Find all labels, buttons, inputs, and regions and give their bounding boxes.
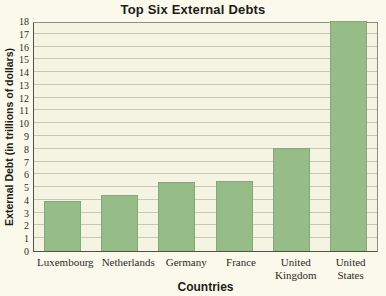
x-category-label-united-states: United States: [323, 256, 378, 282]
y-tick-label-14: 14: [19, 68, 29, 78]
bar-netherlands: [101, 195, 138, 251]
x-category-label-united-kingdom: United Kingdom: [268, 256, 323, 282]
y-tick-label-7: 7: [24, 158, 29, 168]
x-axis-category-labels: LuxembourgNetherlandsGermanyFranceUnited…: [33, 256, 378, 282]
y-tick-label-2: 2: [24, 221, 29, 231]
y-tick-label-10: 10: [19, 119, 29, 129]
y-tick-label-16: 16: [19, 43, 29, 53]
y-tick-label-1: 1: [24, 234, 29, 244]
bar-luxembourg: [44, 201, 81, 251]
bar-slot: [91, 195, 148, 251]
bars-container: [34, 23, 377, 251]
bar-germany: [158, 182, 195, 251]
bar-slot: [320, 21, 377, 251]
y-tick-label-13: 13: [19, 81, 29, 91]
y-tick-label-4: 4: [24, 196, 29, 206]
y-tick-label-17: 17: [19, 30, 29, 40]
y-tick-label-5: 5: [24, 183, 29, 193]
y-tick-label-8: 8: [24, 145, 29, 155]
bar-slot: [206, 181, 263, 251]
y-tick-label-9: 9: [24, 132, 29, 142]
x-category-label-france: France: [214, 256, 269, 282]
bar-slot: [34, 201, 91, 251]
bar-chart-figure: Top Six External Debts External Debt (in…: [0, 0, 386, 296]
x-category-label-luxembourg: Luxembourg: [33, 256, 98, 282]
y-tick-label-18: 18: [19, 17, 29, 27]
y-tick-label-11: 11: [19, 106, 29, 116]
y-tick-label-3: 3: [24, 209, 29, 219]
bar-slot: [263, 148, 320, 252]
x-category-label-netherlands: Netherlands: [98, 256, 159, 282]
bar-united-states: [330, 21, 367, 251]
plot-area: [33, 22, 378, 252]
y-tick-label-12: 12: [19, 94, 29, 104]
bar-united-kingdom: [273, 148, 310, 252]
y-axis-ticks: 0123456789101112131415161718: [0, 22, 31, 252]
chart-title: Top Six External Debts: [0, 2, 386, 17]
x-axis-title: Countries: [33, 280, 378, 294]
y-tick-label-6: 6: [24, 170, 29, 180]
bar-slot: [148, 182, 205, 251]
y-tick-label-15: 15: [19, 55, 29, 65]
bar-france: [216, 181, 253, 251]
y-tick-label-0: 0: [24, 247, 29, 257]
x-category-label-germany: Germany: [159, 256, 214, 282]
